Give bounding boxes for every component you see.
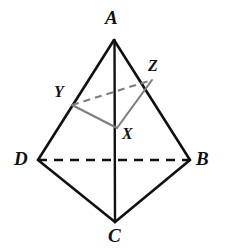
vertex-label-y: Y: [54, 84, 64, 100]
edge-DC: [38, 160, 115, 222]
figure-canvas: [0, 0, 228, 250]
edge-AC: [115, 40, 116, 222]
vertex-label-a: A: [105, 8, 118, 27]
vertex-label-d: D: [14, 149, 28, 168]
vertex-label-b: B: [196, 149, 209, 168]
edge-XZ: [117, 80, 152, 128]
vertex-label-c: C: [108, 226, 121, 245]
edge-AD: [38, 40, 114, 160]
geometry-figure: A B C D X Y Z: [0, 0, 228, 250]
edge-YZ: [72, 80, 152, 105]
vertex-label-z: Z: [148, 58, 158, 74]
edge-BC: [115, 160, 190, 222]
vertex-label-x: X: [122, 126, 133, 142]
edge-XY: [72, 105, 117, 128]
